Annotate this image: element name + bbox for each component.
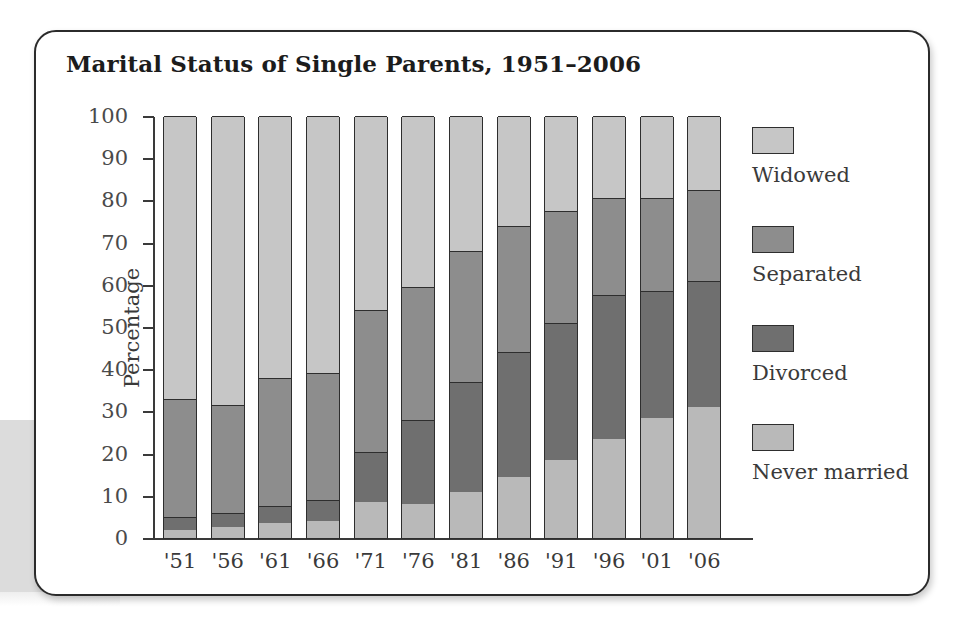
bar-group[interactable]: [163, 117, 197, 539]
legend-item-never-married[interactable]: Never married: [752, 424, 922, 484]
stacked-bar[interactable]: [163, 117, 197, 539]
legend-swatch: [752, 127, 794, 154]
bar-segment-separated[interactable]: [450, 251, 482, 382]
bar-group[interactable]: [592, 117, 626, 539]
bar-segment-divorced[interactable]: [450, 382, 482, 492]
bar-segment-never-married[interactable]: [164, 530, 196, 538]
x-tick-label: '61: [253, 549, 297, 573]
bar-segment-separated[interactable]: [212, 405, 244, 513]
bar-segment-separated[interactable]: [259, 378, 291, 507]
bar-group[interactable]: [401, 117, 435, 539]
bar-group[interactable]: [306, 117, 340, 539]
bar-segment-divorced[interactable]: [212, 513, 244, 528]
y-tick-label: 70: [101, 230, 128, 254]
bar-segment-divorced[interactable]: [688, 281, 720, 408]
x-tick-label: '76: [396, 549, 440, 573]
bar-segment-never-married[interactable]: [212, 527, 244, 538]
stacked-bar[interactable]: [640, 117, 674, 539]
bar-segment-widowed[interactable]: [498, 116, 530, 226]
bar-segment-divorced[interactable]: [259, 506, 291, 523]
bar-group[interactable]: [354, 117, 388, 539]
bar-segment-separated[interactable]: [307, 373, 339, 500]
bar-group[interactable]: [544, 117, 578, 539]
stacked-bar[interactable]: [687, 117, 721, 539]
legend-item-divorced[interactable]: Divorced: [752, 325, 922, 385]
bar-segment-never-married[interactable]: [641, 418, 673, 538]
y-tick: 10: [143, 496, 154, 498]
stacked-bar[interactable]: [306, 117, 340, 539]
bar-segment-divorced[interactable]: [355, 452, 387, 503]
bar-segment-divorced[interactable]: [545, 323, 577, 460]
chart-title: Marital Status of Single Parents, 1951–2…: [66, 50, 641, 77]
legend-swatch: [752, 424, 794, 451]
bar-segment-separated[interactable]: [688, 190, 720, 281]
legend-label: Divorced: [752, 361, 922, 385]
bar-segment-never-married[interactable]: [593, 439, 625, 538]
y-tick-label: 90: [101, 146, 128, 170]
y-tick: 0: [143, 538, 154, 540]
bar-segment-widowed[interactable]: [545, 116, 577, 211]
bar-segment-divorced[interactable]: [402, 420, 434, 504]
bar-segment-widowed[interactable]: [164, 116, 196, 399]
bar-segment-separated[interactable]: [402, 287, 434, 420]
stacked-bar[interactable]: [401, 117, 435, 539]
y-tick: 30: [143, 411, 154, 413]
bar-segment-widowed[interactable]: [641, 116, 673, 198]
stacked-bar[interactable]: [211, 117, 245, 539]
bar-segment-widowed[interactable]: [307, 116, 339, 373]
legend-label: Widowed: [752, 163, 922, 187]
bar-segment-widowed[interactable]: [688, 116, 720, 190]
y-tick: 80: [143, 200, 154, 202]
bar-segment-never-married[interactable]: [688, 407, 720, 538]
stacked-bar[interactable]: [592, 117, 626, 539]
bar-segment-never-married[interactable]: [545, 460, 577, 538]
bar-group[interactable]: [211, 117, 245, 539]
bar-segment-never-married[interactable]: [259, 523, 291, 538]
bar-segment-widowed[interactable]: [402, 116, 434, 287]
bar-segment-widowed[interactable]: [259, 116, 291, 378]
bar-segment-never-married[interactable]: [450, 492, 482, 538]
bar-segment-never-married[interactable]: [355, 502, 387, 538]
x-tick-label: '01: [635, 549, 679, 573]
stacked-bar[interactable]: [449, 117, 483, 539]
bar-segment-widowed[interactable]: [593, 116, 625, 198]
bar-segment-widowed[interactable]: [212, 116, 244, 405]
bar-segment-widowed[interactable]: [450, 116, 482, 251]
x-tick-label: '71: [349, 549, 393, 573]
bar-group[interactable]: [258, 117, 292, 539]
bar-segment-divorced[interactable]: [641, 291, 673, 418]
bar-group[interactable]: [497, 117, 531, 539]
chart-card: Marital Status of Single Parents, 1951–2…: [34, 30, 930, 596]
legend-label: Never married: [752, 460, 922, 484]
x-tick-label: '91: [539, 549, 583, 573]
bar-segment-divorced[interactable]: [164, 517, 196, 530]
bar-segment-separated[interactable]: [164, 399, 196, 517]
x-tick-label: '66: [301, 549, 345, 573]
stacked-bar[interactable]: [497, 117, 531, 539]
legend-item-separated[interactable]: Separated: [752, 226, 922, 286]
bar-segment-never-married[interactable]: [498, 477, 530, 538]
bar-group[interactable]: [640, 117, 674, 539]
bar-segment-separated[interactable]: [641, 198, 673, 291]
bar-segment-never-married[interactable]: [307, 521, 339, 538]
bar-segment-never-married[interactable]: [402, 504, 434, 538]
legend-item-widowed[interactable]: Widowed: [752, 127, 922, 187]
bar-group[interactable]: [449, 117, 483, 539]
bar-segment-divorced[interactable]: [307, 500, 339, 521]
y-tick-label: 0: [115, 526, 128, 550]
x-tick-label: '96: [587, 549, 631, 573]
bar-segment-separated[interactable]: [355, 310, 387, 451]
y-tick-label: 80: [101, 188, 128, 212]
bar-segment-separated[interactable]: [498, 226, 530, 353]
stacked-bar[interactable]: [544, 117, 578, 539]
bar-segment-separated[interactable]: [593, 198, 625, 295]
bar-segment-divorced[interactable]: [593, 295, 625, 438]
bar-segment-separated[interactable]: [545, 211, 577, 323]
stacked-bar[interactable]: [258, 117, 292, 539]
bar-segment-divorced[interactable]: [498, 352, 530, 476]
bar-segment-widowed[interactable]: [355, 116, 387, 310]
bar-series-container: [154, 117, 742, 539]
bar-group[interactable]: [687, 117, 721, 539]
stacked-bar[interactable]: [354, 117, 388, 539]
y-tick-label: 60: [101, 272, 128, 296]
